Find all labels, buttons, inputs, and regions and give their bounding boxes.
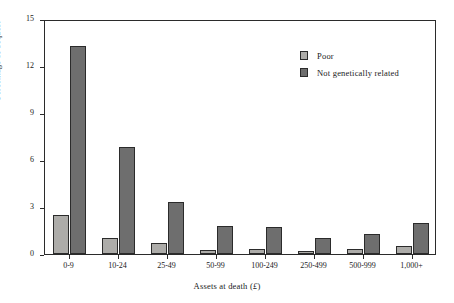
bar-poor-250-499	[298, 251, 314, 254]
y-tick-label: 9	[30, 108, 34, 117]
x-tick-mark-25-49	[167, 255, 168, 259]
bar-not-genetically-related-500-999	[364, 234, 380, 254]
x-tick-mark-1,000+	[412, 255, 413, 259]
y-tick-label: 3	[30, 202, 34, 211]
x-axis-title-suffix: )	[257, 281, 260, 291]
x-tick-mark-500-999	[363, 255, 364, 259]
y-tick-label: 0	[30, 249, 34, 258]
bar-not-genetically-related-50-99	[217, 226, 233, 254]
bar-poor-0-9	[53, 215, 69, 254]
chart-legend: PoorNot genetically related	[300, 47, 399, 81]
x-tick-label-1,000+: 1,000+	[400, 261, 423, 270]
bar-poor-500-999	[347, 249, 363, 254]
bar-not-genetically-related-250-499	[315, 238, 331, 254]
x-tick-label-50-99: 50-99	[206, 261, 225, 270]
legend-item-notrel: Not genetically related	[300, 64, 399, 81]
legend-item-poor: Poor	[300, 47, 399, 64]
bar-poor-1,000+	[396, 246, 412, 254]
y-tick-mark	[40, 255, 44, 256]
x-tick-mark-10-24	[118, 255, 119, 259]
legend-label: Not genetically related	[317, 68, 399, 78]
y-tick-label: 6	[30, 155, 34, 164]
bar-not-genetically-related-0-9	[70, 46, 86, 254]
x-tick-mark-100-249	[265, 255, 266, 259]
x-tick-mark-250-499	[314, 255, 315, 259]
bar-not-genetically-related-100-249	[266, 227, 282, 254]
y-axis-title: Percentage of bequest	[0, 0, 2, 100]
x-tick-mark-0-9	[69, 255, 70, 259]
bar-not-genetically-related-10-24	[119, 147, 135, 254]
x-axis-title-text: Assets at death (	[194, 281, 253, 291]
x-tick-label-0-9: 0-9	[63, 261, 74, 270]
x-tick-mark-50-99	[216, 255, 217, 259]
x-tick-label-500-999: 500-999	[349, 261, 376, 270]
bar-poor-10-24	[102, 238, 118, 254]
x-tick-label-25-49: 25-49	[157, 261, 176, 270]
bar-poor-25-49	[151, 243, 167, 254]
y-tick-label: 12	[26, 61, 34, 70]
legend-swatch-icon-notrel	[300, 68, 308, 77]
x-axis-title: Assets at death (£)	[0, 281, 454, 291]
x-tick-label-10-24: 10-24	[108, 261, 127, 270]
bar-not-genetically-related-25-49	[168, 202, 184, 254]
bar-poor-100-249	[249, 249, 265, 254]
x-tick-label-100-249: 100-249	[251, 261, 278, 270]
bar-chart-figure: Percentage of bequest 03691215 0-910-242…	[0, 0, 454, 303]
legend-label: Poor	[317, 51, 334, 61]
y-tick-label: 15	[26, 14, 34, 23]
bar-poor-50-99	[200, 250, 216, 254]
x-tick-label-250-499: 250-499	[300, 261, 327, 270]
bar-not-genetically-related-1,000+	[413, 223, 429, 254]
legend-swatch-icon-poor	[300, 51, 308, 60]
